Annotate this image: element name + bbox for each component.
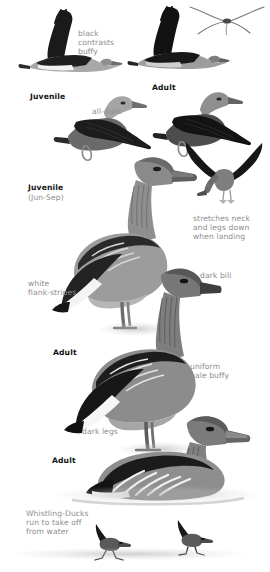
age-label-juvenile-standing-season: (Jun-Sep) — [28, 194, 64, 203]
water-wash-running — [14, 548, 244, 560]
age-label-adult-swimming: Adult — [52, 457, 76, 466]
annotation-uniform-pale-buffy: uniform pale buffy — [190, 363, 229, 381]
distant-flight-silhouette-figure — [188, 4, 266, 36]
annotation-black-contrasts-buffy: black contrasts buffy — [78, 30, 114, 57]
running-bird-left-figure — [86, 522, 136, 562]
age-label-adult-standing: Adult — [53, 349, 77, 358]
water-wash-swimming — [58, 486, 258, 504]
ground-wash-adult — [120, 442, 200, 456]
age-label-juvenile-flight: Juvenile — [30, 93, 65, 102]
age-label-juvenile-standing: Juvenile — [28, 184, 63, 193]
ground-wash-juvenile — [100, 322, 172, 336]
annotation-white-flank-stripes: white flank-stripes — [28, 280, 76, 298]
adult-downstroke-flight-figure — [148, 88, 258, 158]
juvenile-standing-figure — [44, 152, 202, 332]
annotation-whistling-ducks-run: Whistling-Ducks run to take off from wat… — [26, 510, 89, 537]
annotation-all-dark: all-dark — [92, 108, 121, 117]
age-label-adult-flight: Adult — [152, 84, 176, 93]
annotation-dark-bill: dark bill — [200, 272, 231, 281]
running-bird-right-figure — [168, 518, 218, 558]
adult-upstroke-flight-figure — [126, 6, 236, 80]
landing-bird-figure — [182, 140, 266, 206]
juvenile-downstroke-flight-figure — [46, 92, 158, 164]
field-guide-plate: black contrasts buffy Juvenile Adult all… — [0, 0, 270, 572]
adult-standing-figure — [52, 262, 222, 452]
annotation-stretches-neck: stretches neck and legs down when landin… — [193, 215, 250, 242]
annotation-dark-legs: dark legs — [82, 428, 118, 437]
